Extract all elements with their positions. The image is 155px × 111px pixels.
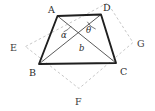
vertex-label-e: E (10, 42, 17, 53)
quadrilateral-ABCD (39, 15, 116, 65)
b-label: b (79, 43, 84, 53)
theta-label: θ (86, 25, 91, 35)
vertex-label-b: B (29, 67, 36, 78)
vertex-label-c: C (120, 66, 127, 77)
geometry-figure: A B C D E F G α θ b (0, 0, 155, 111)
alpha-label: α (61, 30, 67, 40)
figure-canvas: A B C D E F G α θ b (0, 0, 155, 111)
vertex-label-a: A (47, 4, 55, 15)
vertex-label-d: D (103, 2, 111, 13)
vertex-label-g: G (137, 38, 145, 49)
vertex-label-f: F (75, 96, 82, 107)
